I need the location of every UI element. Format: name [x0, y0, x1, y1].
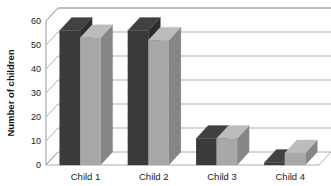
- y-tick-label: 50: [31, 40, 41, 50]
- gridline-depth-connector: [46, 8, 58, 21]
- chart-canvas: 0102030405060 Child 1Child 2Child 3Child…: [0, 0, 331, 186]
- gridline-depth-connector: [46, 56, 58, 69]
- gridline-depth-connector: [46, 32, 58, 45]
- category-label: Child 3: [207, 171, 237, 182]
- gridline-depth-connector: [46, 80, 58, 93]
- category-label: Child 2: [139, 171, 169, 182]
- bar-front-face: [264, 163, 284, 165]
- category-label: Child 4: [275, 171, 305, 182]
- bar-2-series-2: [148, 27, 180, 165]
- gridline-depth-connector: [46, 104, 58, 117]
- bar-front-face: [196, 139, 216, 165]
- bar-front-face: [148, 40, 168, 165]
- y-tick-label: 30: [31, 88, 41, 98]
- y-tick-label: 20: [31, 112, 41, 122]
- bars-group: [60, 18, 318, 165]
- y-tick-label: 40: [31, 64, 41, 74]
- y-tick-label: 60: [31, 16, 41, 26]
- bar-front-face: [285, 153, 305, 165]
- bar-side-face: [101, 25, 113, 165]
- y-tick-label: 10: [31, 136, 41, 146]
- bar-front-face: [217, 139, 237, 165]
- y-tick-label: 0: [36, 160, 41, 170]
- bar-front-face: [80, 38, 100, 165]
- y-axis-title: Number of children: [5, 49, 16, 136]
- category-label: Child 1: [71, 171, 101, 182]
- category-labels-group: Child 1Child 2Child 3Child 4: [71, 171, 305, 182]
- bar-side-face: [169, 27, 181, 165]
- gridline-depth-connector: [46, 128, 58, 141]
- y-tick-labels-group: 0102030405060: [31, 16, 41, 170]
- bar-front-face: [128, 31, 148, 165]
- bar-front-face: [60, 31, 80, 165]
- bar-1-series-2: [80, 25, 112, 165]
- bar-chart: 0102030405060 Child 1Child 2Child 3Child…: [0, 0, 331, 186]
